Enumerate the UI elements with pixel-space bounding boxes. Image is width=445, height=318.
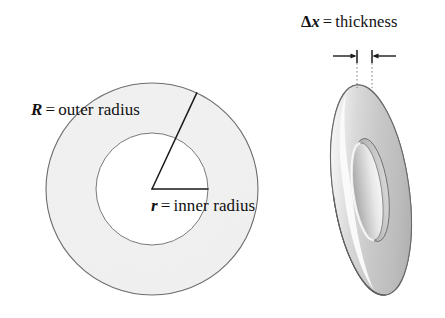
outer-radius-symbol: R [31,100,43,119]
thickness-variable-symbol: x [311,12,320,31]
outer-radius-label: R=outer radius [31,101,140,118]
inner-radius-equals: = [159,196,174,215]
thickness-label: Δx=thickness [301,14,398,31]
inner-radius-text: inner radius [173,196,255,215]
dimension-arrow-right [372,53,396,58]
dimension-arrow-left [333,53,357,58]
washer-diagram-figure: R=outer radius r=inner radius Δx=thickne… [0,0,445,318]
thickness-dimension-layer [0,0,445,318]
outer-radius-equals: = [43,100,58,119]
thickness-equals: = [321,12,335,31]
outer-radius-text: outer radius [58,100,140,119]
thickness-text: thickness [335,12,397,31]
inner-radius-symbol: r [151,196,159,215]
inner-radius-label: r=inner radius [151,197,255,214]
thickness-delta-symbol: Δ [301,12,311,31]
